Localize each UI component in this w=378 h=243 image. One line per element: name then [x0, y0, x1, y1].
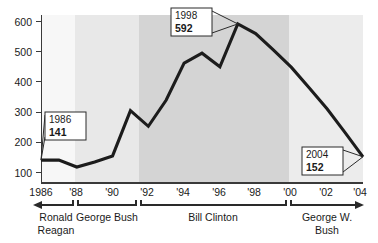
- x-tick-label-1994: '94: [176, 186, 190, 198]
- y-tick-label-600: 600: [14, 16, 32, 28]
- x-tick-label-1986: 1986: [29, 186, 53, 198]
- x-tick-label-2004: '04: [353, 186, 367, 198]
- y-tick-label-500: 500: [14, 46, 32, 58]
- x-tick-label-1998: '98: [247, 186, 261, 198]
- president-label-gw-bush-line2: Bush: [315, 224, 339, 236]
- x-tick-labels: 1986 '88 '90 '92 '94 '96 '98 '00 '02 '04: [29, 186, 367, 198]
- callout-2004-year: 2004: [306, 149, 329, 160]
- band-ronald-reagan: [41, 15, 75, 183]
- bracket-reagan-arrow-icon: [33, 201, 42, 209]
- bracket-george-w-bush: [291, 200, 356, 205]
- bracket-ronald-reagan: [40, 200, 73, 205]
- x-tick-label-2000: '00: [283, 186, 297, 198]
- presidential-brackets: [33, 200, 364, 209]
- callout-1998-year: 1998: [175, 10, 198, 21]
- y-tick-label-100: 100: [14, 167, 32, 179]
- y-tick-label-400: 400: [14, 76, 32, 88]
- band-bill-clinton: [139, 15, 289, 183]
- x-tick-label-1988: '88: [69, 186, 83, 198]
- bracket-bill-clinton: [141, 200, 286, 205]
- y-tick-marks: [36, 22, 41, 173]
- x-tick-label-1996: '96: [212, 186, 226, 198]
- callout-1998-value: 592: [175, 22, 193, 34]
- callout-1986-value: 141: [49, 126, 67, 138]
- y-tick-labels: 600 500 400 300 200 100: [14, 16, 32, 179]
- x-tick-label-2002: '02: [319, 186, 333, 198]
- president-label-reagan-line1: Ronald: [39, 211, 72, 223]
- y-tick-label-200: 200: [14, 136, 32, 148]
- callout-2004-value: 152: [306, 161, 324, 173]
- presidential-terms-line-chart: 600 500 400 300 200 100 1986 141 1998 59…: [0, 0, 378, 243]
- president-label-george-bush: George Bush: [76, 211, 138, 223]
- y-tick-label-300: 300: [14, 106, 32, 118]
- president-label-gw-bush-line1: George W.: [302, 211, 352, 223]
- president-labels: Ronald Reagan George Bush Bill Clinton G…: [38, 211, 352, 236]
- x-tick-label-1990: '90: [105, 186, 119, 198]
- bracket-george-bush: [78, 200, 136, 205]
- callout-1986-year: 1986: [49, 114, 72, 125]
- x-tick-label-1992: '92: [140, 186, 154, 198]
- chart-container: 600 500 400 300 200 100 1986 141 1998 59…: [0, 0, 378, 243]
- bracket-gw-bush-arrow-icon: [355, 201, 364, 209]
- president-label-reagan-line2: Reagan: [38, 224, 75, 236]
- president-label-bill-clinton: Bill Clinton: [188, 211, 238, 223]
